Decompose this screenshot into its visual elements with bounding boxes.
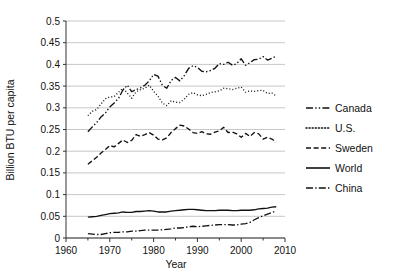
y-tick-label: 0.2 bbox=[46, 146, 60, 157]
y-axis-title: Billion BTU per capita bbox=[4, 79, 16, 180]
legend-label: Canada bbox=[335, 102, 372, 114]
x-tick-label: 1970 bbox=[99, 245, 122, 256]
y-tick-label: 0.35 bbox=[41, 81, 61, 92]
y-axis bbox=[63, 21, 66, 238]
legend: CanadaU.S.SwedenWorldChina bbox=[306, 102, 373, 194]
y-tick-label: 0.5 bbox=[46, 16, 60, 27]
x-tick-label: 1990 bbox=[186, 245, 209, 256]
line-chart: 00.050.10.150.20.250.30.350.40.450.5 196… bbox=[0, 0, 394, 275]
y-tick-label: 0.15 bbox=[41, 167, 61, 178]
series-line-china bbox=[88, 211, 276, 234]
legend-label: World bbox=[335, 162, 362, 174]
legend-item-sweden[interactable]: Sweden bbox=[306, 142, 373, 154]
chart-container: 00.050.10.150.20.250.30.350.40.450.5 196… bbox=[0, 0, 394, 275]
x-axis-title: Year bbox=[165, 258, 187, 270]
y-tick-label: 0.4 bbox=[46, 59, 60, 70]
legend-label: China bbox=[335, 182, 363, 194]
y-tick-label: 0.45 bbox=[41, 37, 61, 48]
x-tick-label: 1980 bbox=[142, 245, 165, 256]
x-tick-label: 1960 bbox=[55, 245, 78, 256]
series-line-world bbox=[88, 207, 276, 217]
y-tick-label: 0.1 bbox=[46, 189, 60, 200]
x-tick-label: 2010 bbox=[274, 245, 297, 256]
y-tick-label: 0 bbox=[54, 233, 60, 244]
x-axis bbox=[66, 238, 285, 242]
legend-label: Sweden bbox=[335, 142, 373, 154]
legend-label: U.S. bbox=[335, 122, 355, 134]
x-tick-label: 2000 bbox=[230, 245, 253, 256]
legend-item-world[interactable]: World bbox=[306, 162, 362, 174]
legend-item-canada[interactable]: Canada bbox=[306, 102, 372, 114]
series-line-sweden bbox=[88, 125, 276, 164]
series-line-canada bbox=[88, 56, 276, 132]
data-series-group bbox=[88, 56, 276, 234]
y-tick-label: 0.05 bbox=[41, 211, 61, 222]
legend-item-china[interactable]: China bbox=[306, 182, 363, 194]
x-tick-labels: 196019701980199020002010 bbox=[55, 245, 297, 256]
y-tick-label: 0.3 bbox=[46, 102, 60, 113]
y-tick-labels: 00.050.10.150.20.250.30.350.40.450.5 bbox=[41, 16, 61, 244]
y-tick-label: 0.25 bbox=[41, 124, 61, 135]
legend-item-us[interactable]: U.S. bbox=[306, 122, 355, 134]
